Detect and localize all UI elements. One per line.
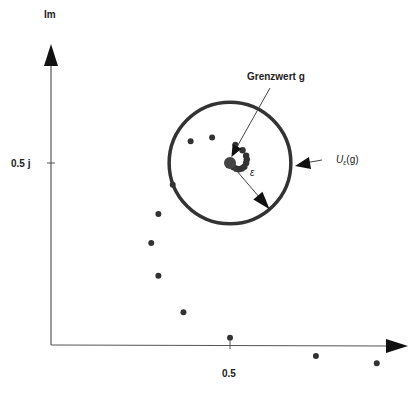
sequence-point: [209, 135, 215, 141]
sequence-point: [313, 353, 319, 359]
sequence-point: [148, 240, 154, 246]
sequence-points: [148, 135, 380, 367]
sequence-point: [180, 309, 186, 315]
imaginary-axis-arrowhead: [44, 44, 58, 66]
sequence-point: [227, 335, 233, 341]
epsilon-label: ε: [250, 167, 255, 178]
sequence-point: [239, 147, 245, 153]
neighborhood-pointer-arrowhead: [295, 157, 311, 169]
imaginary-axis-label: Im: [44, 9, 56, 20]
sequence-point: [188, 138, 194, 144]
real-axis: [51, 345, 390, 346]
limit-pointer-arrow: [234, 88, 270, 152]
real-tick-label: 0.5: [222, 368, 236, 379]
limit-label: Grenzwert g: [247, 71, 305, 82]
epsilon-radius-arrowhead: [253, 192, 269, 210]
neighborhood-label-tail: (g): [346, 154, 358, 165]
sequence-point: [155, 211, 161, 217]
sequence-point: [155, 273, 161, 279]
sequence-point: [374, 360, 380, 366]
sequence-point: [170, 182, 176, 188]
neighborhood-label: Uε(g): [336, 154, 359, 166]
imag-tick-label: 0.5 j: [11, 158, 31, 169]
real-axis-arrowhead: [386, 339, 408, 353]
complex-plane-diagram: Im 0.5 j 0.5 Grenzwert g ε Uε(g): [0, 0, 418, 393]
